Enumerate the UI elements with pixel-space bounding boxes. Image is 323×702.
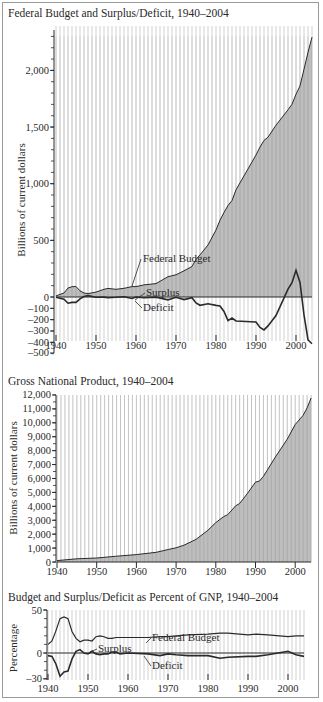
leader-line [144,656,151,666]
y-tick-label: 7,000 [27,459,51,470]
y-tick-label: 50 [32,605,43,616]
figure-page: Federal Budget and Surplus/Deficit, 1940… [0,0,323,702]
y-tick-label: 4,000 [27,501,51,512]
y-tick-label: 2,000 [25,65,49,76]
x-tick-label: 1940 [47,566,68,577]
x-tick-label: 1980 [206,340,227,351]
y-tick-label: 11,000 [23,403,52,414]
y-tick-label: 9,000 [27,431,51,442]
x-tick-label: 1960 [126,566,147,577]
x-tick-label: 1980 [198,683,219,694]
x-tick-label: 1990 [246,340,267,351]
annotation-federal-budget: Federal Budget [152,631,220,643]
x-tick-label: 2000 [286,340,307,351]
charts-svg: Federal Budget and Surplus/Deficit, 1940… [0,0,323,702]
y-tick-label: –300 [27,325,49,336]
chart-federal-budget: Federal Budget and Surplus/Deficit, 1940… [8,7,312,358]
annotation-deficit: Deficit [143,301,174,313]
x-tick-label: 1950 [78,683,99,694]
chart-percent-gnp: Budget and Surplus/Deficit as Percent of… [7,591,304,694]
y-axis-label: Billions of current dollars [7,421,19,534]
x-tick-label: 2000 [278,683,299,694]
y-tick-label: 3,000 [27,515,51,526]
x-tick-label: 1960 [126,340,147,351]
x-tick-label: 2000 [285,566,306,577]
y-tick-label: 12,000 [22,389,51,400]
chart-title: Budget and Surplus/Deficit as Percent of… [8,591,278,604]
y-tick-label: 1,000 [27,543,51,554]
x-tick-label: 1970 [166,340,187,351]
y-tick-label: 5,000 [27,487,51,498]
x-tick-label: 1950 [86,340,107,351]
leader-line [146,638,151,643]
y-tick-label: 1,000 [25,178,49,189]
gnp-area [57,395,311,562]
x-tick-label: 1990 [238,683,259,694]
y-tick-label: –200 [27,314,49,325]
x-tick-label: 1980 [205,566,226,577]
x-tick-label: 1940 [46,340,67,351]
y-axis-label: Percentage [7,624,19,672]
x-tick-label: 1950 [86,566,107,577]
chart-gnp: Gross National Product, 1940–2004 01,000… [7,375,311,577]
chart-title: Gross National Product, 1940–2004 [8,375,174,388]
x-tick-label: 1970 [166,566,187,577]
y-tick-label: –100 [27,303,49,314]
y-tick-label: 500 [33,235,49,246]
x-tick-label: 1990 [245,566,266,577]
annotation-federal-budget: Federal Budget [143,252,211,264]
annotation-surplus: Surplus [146,286,180,298]
y-tick-label: 10,000 [22,417,51,428]
annotation-surplus: Surplus [98,642,132,654]
y-tick-label: 0 [37,648,42,659]
y-tick-label: 2,000 [27,529,51,540]
x-tick-label: 1960 [118,683,139,694]
x-tick-label: 1970 [158,683,179,694]
y-tick-label: 8,000 [27,445,51,456]
x-tick-label: 1940 [38,683,59,694]
y-tick-label: 1,500 [25,122,49,133]
y-axis-label: Billions of current dollars [15,143,27,256]
y-tick-label: 0 [44,292,49,303]
y-tick-label: 6,000 [27,473,51,484]
chart-title: Federal Budget and Surplus/Deficit, 1940… [8,7,229,20]
annotation-deficit: Deficit [152,659,183,671]
